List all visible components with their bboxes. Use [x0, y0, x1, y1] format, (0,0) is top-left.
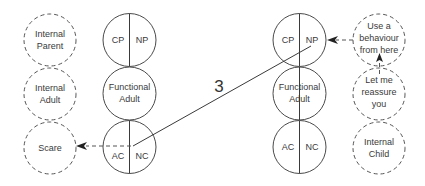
- left-np-label: NP: [136, 35, 149, 45]
- transaction-number: 3: [214, 77, 223, 96]
- arrow-to-right-np: [327, 36, 353, 44]
- left-ac-label: AC: [112, 151, 125, 161]
- left-nc-label: NC: [136, 151, 149, 161]
- right-child-circle: AC NC: [273, 121, 326, 174]
- right-adult-label-1: Functional: [279, 82, 321, 92]
- internal-parent-circle: Internal Parent: [24, 14, 76, 66]
- left-internal-states: Internal Parent Internal Adult Scare: [24, 14, 76, 174]
- internal-adult-label-1: Internal: [35, 83, 65, 93]
- left-person-ego-states: CP NP Functional Adult AC NC: [103, 14, 156, 174]
- use-behaviour-label-3: from here: [360, 45, 399, 55]
- internal-child-label-1: Internal: [364, 137, 394, 147]
- right-ac-label: AC: [282, 142, 295, 152]
- use-behaviour-label-1: Use a: [367, 21, 391, 31]
- internal-parent-label-1: Internal: [35, 29, 65, 39]
- right-internal-states: Use a behaviour from here Let me reassur…: [353, 14, 405, 174]
- internal-parent-label-2: Parent: [37, 41, 64, 51]
- reassure-label-1: Let me: [365, 75, 393, 85]
- internal-adult-circle: Internal Adult: [24, 68, 76, 120]
- left-cp-label: CP: [112, 35, 125, 45]
- reassure-label-2: reassure: [361, 87, 396, 97]
- left-child-circle: AC NC: [103, 121, 156, 174]
- scare-circle: Scare: [24, 122, 76, 174]
- ego-state-diagram: Internal Parent Internal Adult Scare CP …: [0, 0, 425, 186]
- right-adult-label-2: Adult: [289, 94, 310, 104]
- left-adult-circle: Functional Adult: [103, 67, 156, 120]
- right-person-ego-states: CP NP Functional Adult AC NC: [273, 14, 326, 174]
- right-np-label: NP: [306, 35, 319, 45]
- internal-child-circle: Internal Child: [353, 122, 405, 174]
- right-nc-label: NC: [306, 142, 319, 152]
- left-adult-label-1: Functional: [109, 82, 151, 92]
- left-parent-circle: CP NP: [103, 14, 156, 67]
- right-cp-label: CP: [282, 35, 295, 45]
- internal-child-label-2: Child: [369, 149, 390, 159]
- arrow-reassure-to-behaviour: [376, 53, 383, 74]
- left-adult-label-2: Adult: [119, 94, 140, 104]
- transaction-line: 3: [133, 46, 311, 146]
- arrowhead-left-icon: [76, 142, 87, 150]
- scare-label: Scare: [38, 143, 62, 153]
- reassure-label-3: you: [372, 99, 387, 109]
- reassure-circle: Let me reassure you: [353, 68, 405, 120]
- internal-adult-label-2: Adult: [40, 95, 61, 105]
- right-parent-circle: CP NP: [273, 14, 326, 67]
- right-adult-circle: Functional Adult: [273, 67, 326, 120]
- use-behaviour-label-2: behaviour: [359, 33, 399, 43]
